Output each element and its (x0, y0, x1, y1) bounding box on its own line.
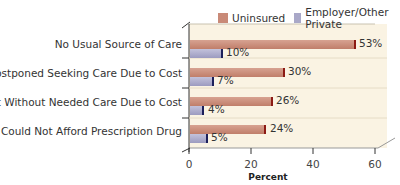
value-label: 4% (208, 103, 225, 115)
x-tick-label: 60 (368, 158, 381, 170)
value-label: 53% (359, 37, 382, 49)
legend-label: Employer/Other Private (305, 6, 391, 30)
bar-employer (190, 134, 208, 143)
category-label: Could Not Afford Prescription Drug (1, 125, 182, 137)
x-axis-label: Percent (248, 172, 287, 182)
legend-item-employer: Employer/Other Private (294, 6, 391, 30)
bar-employer (190, 49, 223, 58)
value-label: 26% (276, 94, 299, 106)
bar-uninsured (190, 97, 273, 106)
value-label: 5% (211, 131, 228, 143)
bar-uninsured (190, 125, 266, 134)
x-tick-label: 20 (244, 158, 257, 170)
bar-uninsured (190, 40, 356, 49)
legend-swatch-employer (294, 13, 301, 23)
bar-employer (190, 106, 204, 115)
category-label: No Usual Source of Care (55, 38, 182, 50)
value-label: 30% (288, 65, 311, 77)
legend: Uninsured Employer/Other Private (218, 6, 400, 30)
bar-uninsured (190, 68, 285, 77)
value-label: 10% (226, 46, 249, 58)
category-label: Went Without Needed Care Due to Cost (0, 96, 182, 108)
legend-item-uninsured: Uninsured (218, 12, 285, 24)
x-tick-label: 0 (186, 158, 193, 170)
value-label: 7% (217, 74, 234, 86)
legend-label: Uninsured (232, 12, 285, 24)
x-tick-label: 40 (306, 158, 319, 170)
value-label: 24% (270, 122, 293, 134)
bar-employer (190, 77, 214, 86)
category-label: Postponed Seeking Care Due to Cost (0, 67, 182, 79)
legend-swatch-uninsured (218, 13, 228, 23)
